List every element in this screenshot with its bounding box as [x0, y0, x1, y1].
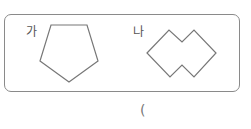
shapes-drawing: [0, 0, 251, 129]
pentagon-shape: [40, 25, 98, 82]
double-diamond-shape: [147, 30, 216, 77]
answer-paren: (: [140, 102, 145, 118]
